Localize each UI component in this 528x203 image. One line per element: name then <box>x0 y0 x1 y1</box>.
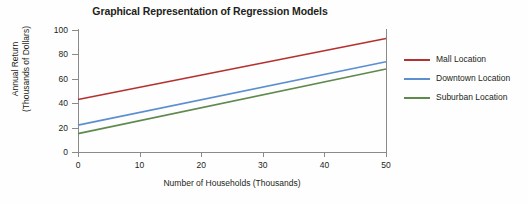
series-line <box>78 39 386 100</box>
legend-item[interactable]: Downtown Location <box>404 69 528 88</box>
y-tick-label: 60 <box>20 75 68 84</box>
x-tick-mark <box>324 152 325 157</box>
y-tick-label: 0 <box>20 148 68 157</box>
legend-color-swatch <box>404 59 430 61</box>
x-tick-label: 20 <box>181 161 221 170</box>
series-line <box>78 62 386 125</box>
x-tick-label: 10 <box>120 161 160 170</box>
legend-item[interactable]: Mall Location <box>404 50 528 69</box>
regression-chart-figure: Graphical Representation of Regression M… <box>0 0 528 203</box>
legend-color-swatch <box>404 97 430 99</box>
x-tick-mark <box>78 152 79 157</box>
x-tick-mark <box>201 152 202 157</box>
series-lines <box>78 30 386 152</box>
y-tick-label: 40 <box>20 99 68 108</box>
x-tick-mark <box>263 152 264 157</box>
y-tick-label: 100 <box>20 26 68 35</box>
x-tick-mark <box>386 152 387 157</box>
legend-label: Downtown Location <box>436 74 510 83</box>
y-tick-label: 80 <box>20 50 68 59</box>
plot-right-border <box>386 29 387 153</box>
x-tick-mark <box>140 152 141 157</box>
x-axis-title: Number of Households (Thousands) <box>78 178 386 188</box>
legend-label: Suburban Location <box>436 93 507 102</box>
x-tick-label: 50 <box>366 161 406 170</box>
legend-label: Mall Location <box>436 55 486 64</box>
x-tick-label: 0 <box>58 161 98 170</box>
chart-title: Graphical Representation of Regression M… <box>0 5 420 17</box>
x-axis-line <box>77 152 387 153</box>
chart-legend: Mall LocationDowntown LocationSuburban L… <box>404 50 528 107</box>
x-tick-label: 30 <box>243 161 283 170</box>
x-tick-label: 40 <box>304 161 344 170</box>
legend-item[interactable]: Suburban Location <box>404 88 528 107</box>
series-line <box>78 69 386 134</box>
legend-color-swatch <box>404 78 430 80</box>
y-tick-label: 20 <box>20 124 68 133</box>
